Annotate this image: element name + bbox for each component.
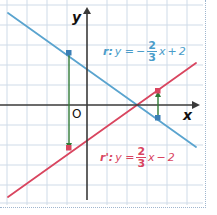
equation-red-name: r': [100, 152, 113, 163]
origin-label: O [72, 108, 81, 120]
equation-red-fraction: 2 3 [136, 146, 146, 169]
grid-lines [0, 0, 203, 205]
equation-red-variable: x [148, 152, 155, 163]
equation-blue-numerator: 2 [147, 40, 157, 51]
point-blue-left [66, 50, 72, 56]
equation-blue-constant: 2 [179, 46, 186, 57]
equation-red-constant: 2 [168, 152, 175, 163]
x-axis-arrow [192, 101, 200, 109]
equation-blue-fraction: 2 3 [147, 40, 157, 63]
line-r-prime-red [8, 63, 196, 197]
dotted-border-right [205, 0, 206, 208]
equation-red-numerator: 2 [136, 146, 146, 157]
line-r-blue [8, 13, 196, 147]
point-red-left [66, 145, 72, 151]
equation-red-lhs: y = [115, 152, 134, 163]
equation-label-blue: r: y = − 2 3 x + 2 [103, 40, 187, 63]
equation-blue-operator: + [167, 46, 176, 57]
equation-blue-sign: − [136, 46, 145, 57]
equation-label-red: r': y = 2 3 x − 2 [100, 146, 176, 169]
point-red-right [155, 88, 161, 94]
dotted-border-bottom [0, 207, 206, 208]
point-blue-right [155, 115, 161, 121]
equation-red-denominator: 3 [136, 157, 146, 169]
graph-figure: y x O r: y = − 2 3 x + 2 r': y = 2 3 x −… [0, 0, 217, 215]
equation-blue-lhs: y = [115, 46, 134, 57]
equation-blue-name: r: [103, 46, 113, 57]
equation-blue-variable: x [159, 46, 166, 57]
x-axis-label: x [183, 108, 192, 122]
equation-red-operator: − [157, 152, 166, 163]
equation-blue-denominator: 3 [147, 51, 157, 63]
y-axis-label: y [72, 10, 81, 24]
y-axis-arrow [83, 7, 91, 14]
